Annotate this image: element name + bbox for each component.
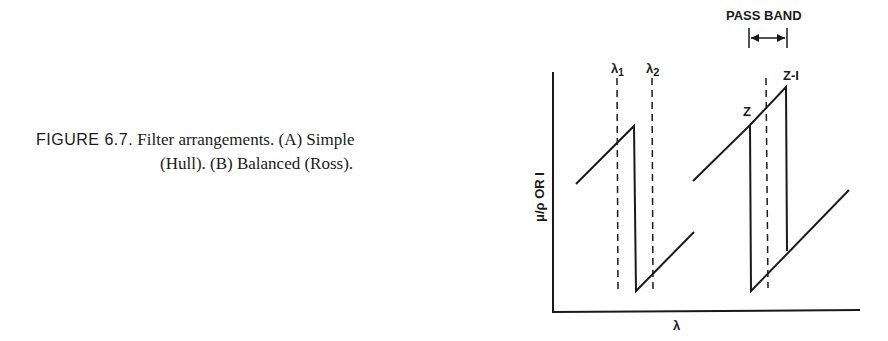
x-axis <box>553 310 860 312</box>
y-axis-label: μ/ρ OR I <box>532 172 547 222</box>
pass-band-centre-line <box>766 78 768 288</box>
z-label: Z <box>743 104 751 119</box>
pass-band-label: PASS BAND <box>726 8 802 23</box>
absorption-curve-a <box>576 126 694 291</box>
z-minus-1-label: Z-I <box>783 68 799 83</box>
absorption-curve-z-minus-1 <box>750 87 787 251</box>
lambda2-label: λ2 <box>646 61 659 78</box>
lambda1-line <box>617 78 618 292</box>
lambda1-label: λ1 <box>611 61 624 78</box>
absorption-curve-z <box>693 125 849 291</box>
lambda2-line <box>652 78 653 292</box>
filter-diagram: PASS BAND Z-I Z λ1 λ2 λ μ/ρ OR I <box>0 0 888 341</box>
x-axis-label: λ <box>673 318 681 333</box>
